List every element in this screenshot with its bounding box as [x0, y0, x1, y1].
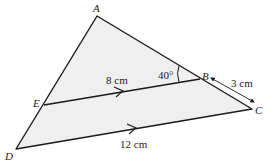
- label-b: B: [202, 70, 209, 82]
- measure-angle-b: 40°: [158, 69, 173, 81]
- label-e: E: [32, 97, 40, 109]
- label-d: D: [4, 150, 13, 162]
- measure-dc: 12 cm: [120, 138, 148, 150]
- similar-triangles-diagram: A B C D E 8 cm 12 cm 3 cm 40°: [0, 0, 268, 162]
- measure-bc: 3 cm: [231, 77, 253, 89]
- label-a: A: [92, 2, 100, 14]
- label-c: C: [255, 104, 263, 116]
- measure-eb: 8 cm: [106, 74, 128, 86]
